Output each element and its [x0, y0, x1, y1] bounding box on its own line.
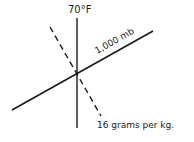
thermodynamic-diagram: 70°F 1,000 mb 16 grams per kg.: [0, 0, 194, 142]
pressure-label: 1,000 mb: [93, 26, 136, 56]
mixing-ratio-line: [50, 27, 101, 116]
temperature-label: 70°F: [68, 4, 92, 15]
moisture-label: 16 grams per kg.: [97, 120, 174, 130]
isobar-line: [12, 31, 153, 110]
